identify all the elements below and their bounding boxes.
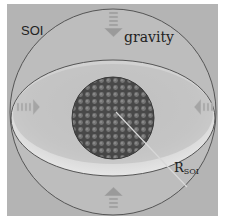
radius-label-sub: SOI — [184, 167, 199, 176]
core-sphere — [72, 77, 154, 159]
radius-label: RSOI — [174, 161, 199, 176]
radius-label-main: R — [174, 160, 184, 175]
gravity-label: gravity — [124, 30, 174, 44]
soi-label: SOI — [21, 24, 43, 37]
